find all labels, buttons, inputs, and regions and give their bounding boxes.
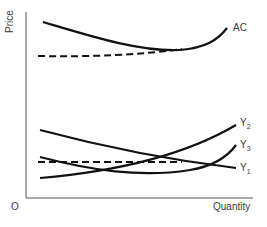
x-axis-label: Quantity (213, 202, 250, 212)
y-axis-label: Price (4, 10, 15, 33)
y3-label: Y3 (240, 140, 251, 150)
origin-label: O (11, 202, 19, 212)
y1-label: Y1 (240, 163, 251, 173)
y3-curve (40, 145, 236, 173)
ac-curve (43, 22, 227, 50)
cost-curves-diagram (0, 0, 267, 227)
y2-label: Y2 (240, 118, 251, 128)
ac-label: AC (233, 23, 247, 33)
